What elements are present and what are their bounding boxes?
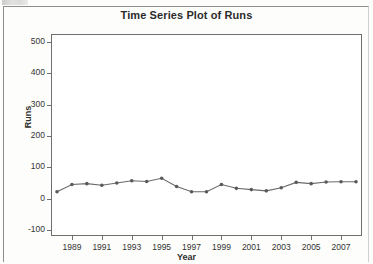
x-tick-label: 1993 <box>118 242 146 252</box>
y-tick-label: 200 <box>31 130 45 140</box>
chart-page: Time Series Plot of Runs Runs Year -1000… <box>0 0 373 264</box>
y-tick-label: 500 <box>31 36 45 46</box>
y-tick-label: -100 <box>28 224 45 234</box>
y-tick-mark <box>47 136 51 137</box>
x-tick-label: 1989 <box>58 242 86 252</box>
y-tick-mark <box>47 167 51 168</box>
x-tick-label: 2007 <box>327 242 355 252</box>
y-tick-mark <box>47 105 51 106</box>
y-axis-tick: 300 <box>0 105 51 106</box>
y-axis-tick: 0 <box>0 199 51 200</box>
x-tick-label: 1995 <box>148 242 176 252</box>
x-tick-label: 1997 <box>178 242 206 252</box>
x-tick-mark <box>281 236 282 240</box>
y-axis-tick: 400 <box>0 73 51 74</box>
x-tick-mark <box>72 236 73 240</box>
y-axis-tick: 100 <box>0 167 51 168</box>
x-tick-label: 2003 <box>267 242 295 252</box>
y-tick-mark <box>47 230 51 231</box>
x-tick-mark <box>102 236 103 240</box>
x-tick-label: 2001 <box>237 242 265 252</box>
x-tick-label: 2005 <box>297 242 325 252</box>
x-tick-mark <box>192 236 193 240</box>
y-axis-tick: 200 <box>0 136 51 137</box>
x-tick-label: 1991 <box>88 242 116 252</box>
x-tick-mark <box>251 236 252 240</box>
y-axis-tick: -100 <box>0 230 51 231</box>
y-axis-tick: 500 <box>0 42 51 43</box>
y-tick-mark <box>47 42 51 43</box>
y-tick-mark <box>47 199 51 200</box>
x-tick-mark <box>221 236 222 240</box>
x-tick-mark <box>341 236 342 240</box>
y-tick-label: 100 <box>31 161 45 171</box>
x-tick-mark <box>132 236 133 240</box>
y-tick-label: 300 <box>31 99 45 109</box>
y-tick-label: 400 <box>31 67 45 77</box>
y-tick-label: 0 <box>40 193 45 203</box>
y-tick-mark <box>47 73 51 74</box>
x-tick-mark <box>311 236 312 240</box>
axis-layer: -100010020030040050019891991199319951997… <box>0 0 373 264</box>
x-tick-label: 1999 <box>207 242 235 252</box>
x-tick-mark <box>162 236 163 240</box>
